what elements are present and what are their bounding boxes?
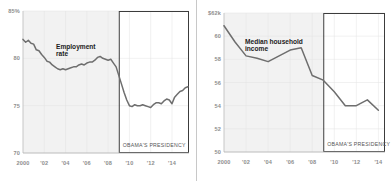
y-axis-tick-label: 85% <box>8 8 20 14</box>
y-axis-tick-label: 58 <box>214 56 221 62</box>
x-axis-tick-label: '08 <box>308 159 316 165</box>
y-axis-tick-label: $62k <box>208 10 222 16</box>
x-axis-tick-label: '14 <box>374 159 383 165</box>
highlight-region-label: OBAMA'S PRESIDENCY <box>123 142 186 148</box>
y-axis-tick-label: 60 <box>214 33 221 39</box>
y-axis-tick-label: 75 <box>13 103 20 109</box>
highlight-region-label: OBAMA'S PRESIDENCY <box>327 141 390 147</box>
y-axis-tick-label: 52 <box>214 126 221 132</box>
x-axis-tick-label: '06 <box>286 159 294 165</box>
employment-rate-chart-svg: 85%8075702000'02'04'06'08'10'12'14Employ… <box>0 0 196 181</box>
series-title-line-2: rate <box>56 50 68 57</box>
x-axis-tick-label: '14 <box>168 160 177 166</box>
chart-panel-employment-rate: 85%8075702000'02'04'06'08'10'12'14Employ… <box>0 0 196 181</box>
x-axis-tick-label: '04 <box>62 160 71 166</box>
figure-container: 85%8075702000'02'04'06'08'10'12'14Employ… <box>0 0 392 181</box>
x-axis-tick-label: '10 <box>330 159 338 165</box>
series-title-line-1: Median household <box>245 38 303 45</box>
chart-panel-median-household-income: $62k6058565452502000'02'04'06'08'10'12'1… <box>196 0 392 181</box>
plot-area-employment-rate: 85%8075702000'02'04'06'08'10'12'14Employ… <box>0 0 196 181</box>
plot-area-median-household-income: $62k6058565452502000'02'04'06'08'10'12'1… <box>197 0 392 181</box>
median-household-income-chart-svg: $62k6058565452502000'02'04'06'08'10'12'1… <box>197 0 392 181</box>
y-axis-tick-label: 56 <box>214 80 221 86</box>
x-axis-tick-label: 2000 <box>16 160 29 166</box>
x-axis-tick-label: 2000 <box>217 159 230 165</box>
x-axis-tick-label: '02 <box>40 160 48 166</box>
x-axis-tick-label: '04 <box>264 159 273 165</box>
x-axis-tick-label: '10 <box>125 160 133 166</box>
y-axis-tick-label: 80 <box>13 55 20 61</box>
x-axis-tick-label: '08 <box>104 160 112 166</box>
x-axis-tick-label: '02 <box>242 159 250 165</box>
x-axis-tick-label: '12 <box>147 160 155 166</box>
y-axis-tick-label: 70 <box>13 150 20 156</box>
x-axis-tick-label: '12 <box>352 159 360 165</box>
series-title-line-2: income <box>245 45 268 52</box>
y-axis-tick-label: 50 <box>214 149 221 155</box>
y-axis-tick-label: 54 <box>214 103 221 109</box>
x-axis-tick-label: '06 <box>83 160 91 166</box>
